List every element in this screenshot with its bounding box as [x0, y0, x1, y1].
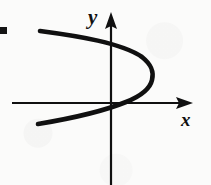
x-axis-label: x	[181, 110, 191, 129]
scan-mark-left-edge-icon	[0, 27, 7, 34]
figure-container: y x	[0, 0, 211, 185]
y-axis-label: y	[88, 7, 97, 28]
parabola-diagram-svg	[0, 0, 211, 185]
sideways-parabola-curve	[38, 31, 153, 124]
